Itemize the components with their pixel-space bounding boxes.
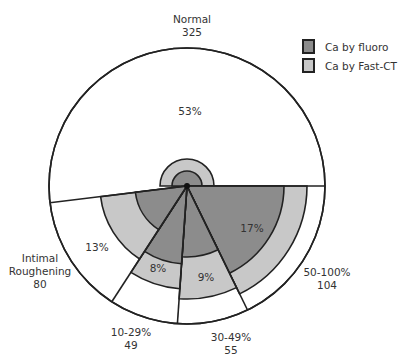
legend-label-fastct: Ca by Fast-CT <box>325 60 397 72</box>
intimal-label-line1: Intimal <box>22 252 58 264</box>
s30-label: 30-49% <box>211 331 252 343</box>
legend: Ca by fluoro Ca by Fast-CT <box>302 37 397 75</box>
normal-label: Normal <box>173 13 211 25</box>
center-dot <box>184 183 190 189</box>
fastct-swatch-icon <box>302 58 315 73</box>
s10-count: 49 <box>124 339 137 351</box>
s50-pct: 17% <box>240 222 263 234</box>
intimal-label-line2: Roughening <box>9 265 72 277</box>
s10-label: 10-29% <box>111 326 152 338</box>
s50-label: 50-100% <box>303 266 350 278</box>
intimal-pct: 13% <box>85 241 108 253</box>
s30-pct: 9% <box>198 271 215 283</box>
s10-pct: 8% <box>150 262 167 274</box>
legend-item-fastct: Ca by Fast-CT <box>302 56 397 75</box>
normal-count: 325 <box>182 26 202 38</box>
legend-item-fluoro: Ca by fluoro <box>302 37 397 56</box>
s50-count: 104 <box>317 279 337 291</box>
fluoro-swatch-icon <box>302 39 315 54</box>
intimal-count: 80 <box>33 278 46 290</box>
normal-pct: 53% <box>178 105 201 117</box>
s30-count: 55 <box>224 344 237 356</box>
legend-label-fluoro: Ca by fluoro <box>325 41 389 53</box>
